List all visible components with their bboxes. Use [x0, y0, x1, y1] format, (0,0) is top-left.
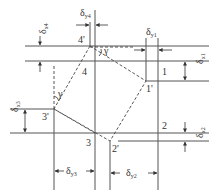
label-4: 4: [82, 66, 87, 77]
displacement-diagram: 4' 4 1 1' 2 2' 3 3' γ γ δx4 δy4 δy1 δx1 …: [0, 0, 209, 195]
label-3: 3: [86, 137, 91, 148]
label-1p: 1': [146, 83, 153, 94]
label-dy2: δy2: [126, 167, 137, 179]
label-3p: 3': [42, 111, 49, 122]
label-gamma-left: γ: [57, 88, 63, 99]
label-2p: 2': [112, 143, 119, 154]
label-dx1: δx1: [194, 53, 206, 64]
label-dy3: δy3: [66, 165, 77, 177]
dashed-outline: [54, 46, 146, 141]
label-dy1: δy1: [146, 26, 157, 38]
label-gamma-top: γ: [103, 45, 109, 56]
label-2: 2: [162, 120, 167, 131]
label-dy4: δy4: [80, 7, 91, 19]
label-dx4: δx4: [37, 23, 49, 34]
label-1: 1: [162, 66, 167, 77]
label-4p: 4': [78, 34, 85, 45]
diagram-canvas: 4' 4 1 1' 2 2' 3 3' γ γ δx4 δy4 δy1 δx1 …: [0, 0, 209, 195]
label-dx3: δx3: [9, 101, 21, 112]
displaced-quadrilateral: [54, 46, 146, 141]
